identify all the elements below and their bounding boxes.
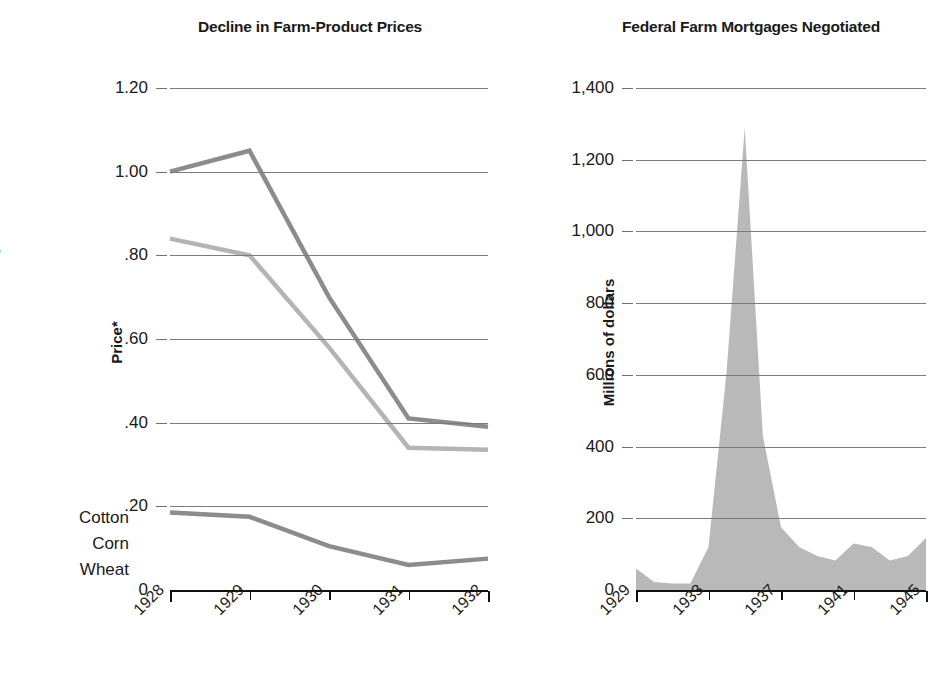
x-tick-mark xyxy=(781,591,783,600)
area-series xyxy=(636,88,926,590)
gridline xyxy=(170,88,488,89)
gridline xyxy=(636,160,926,161)
x-tick-mark xyxy=(409,591,411,600)
gridline xyxy=(636,447,926,448)
gridline xyxy=(636,303,926,304)
y-tick-mark xyxy=(622,88,633,89)
chart-title: Federal Farm Mortgages Negotiated xyxy=(556,18,946,36)
x-tick-mark xyxy=(854,591,856,600)
y-tick-label: 1,000 xyxy=(571,221,614,241)
x-tick-mark xyxy=(488,591,490,602)
chart-legend: Cotton Corn Wheat xyxy=(0,505,129,583)
y-tick-mark xyxy=(156,88,167,89)
gridline xyxy=(170,506,488,507)
y-tick-label: 800 xyxy=(586,293,614,313)
gridline xyxy=(636,231,926,232)
y-tick-mark xyxy=(156,339,167,340)
x-tick-label: 1928 xyxy=(130,581,168,619)
x-tick-mark xyxy=(170,591,172,602)
x-tick-mark xyxy=(926,591,928,602)
y-tick-label: 1.20 xyxy=(115,78,148,98)
x-tick-mark xyxy=(250,591,252,600)
y-tick-label: 1,400 xyxy=(571,78,614,98)
chart-federal-farm-mortgages-negotiated: Federal Farm Mortgages Negotiated Millio… xyxy=(556,18,946,658)
y-tick-mark xyxy=(156,506,167,507)
y-tick-mark xyxy=(622,447,633,448)
y-tick-label: 400 xyxy=(586,437,614,457)
y-tick-label: .60 xyxy=(124,329,148,349)
y-tick-mark xyxy=(156,423,167,424)
series-line-corn xyxy=(170,513,488,565)
legend-item-corn: Corn xyxy=(0,531,129,557)
x-tick-mark xyxy=(636,591,638,602)
legend-label: Cotton xyxy=(79,508,129,527)
gridline xyxy=(636,375,926,376)
series-line-cotton xyxy=(170,151,488,427)
x-tick-label: 1929 xyxy=(596,581,634,619)
y-axis-title: Price* xyxy=(108,313,125,373)
x-tick-mark xyxy=(329,591,331,600)
y-tick-label: 600 xyxy=(586,365,614,385)
legend-item-cotton: Cotton xyxy=(0,505,129,531)
y-tick-mark xyxy=(622,303,633,304)
y-tick-label: 200 xyxy=(586,508,614,528)
x-tick-mark xyxy=(709,591,711,600)
legend-label: Corn xyxy=(92,534,129,553)
y-tick-label: 1.00 xyxy=(115,162,148,182)
area-fill xyxy=(636,127,926,590)
gridline xyxy=(170,172,488,173)
chart-title: Decline in Farm-Product Prices xyxy=(132,18,488,36)
gridline xyxy=(636,518,926,519)
y-tick-mark xyxy=(622,518,633,519)
gridline xyxy=(170,423,488,424)
plot-area: 1,4001,2001,0008006004002000 19291933193… xyxy=(636,88,926,590)
y-tick-mark xyxy=(622,160,633,161)
y-tick-label: .80 xyxy=(124,245,148,265)
plot-area: 1.201.00.80.60.40.200 192819291930193119… xyxy=(170,88,488,590)
y-tick-mark xyxy=(622,231,633,232)
gridline xyxy=(170,339,488,340)
y-tick-mark xyxy=(156,255,167,256)
y-tick-mark xyxy=(156,172,167,173)
legend-item-wheat: Wheat xyxy=(0,557,129,583)
gridline xyxy=(170,255,488,256)
chart-decline-in-farm-product-prices: Decline in Farm-Product Prices Price* 1.… xyxy=(132,18,492,658)
y-axis-title: Millions of dollars xyxy=(600,253,617,433)
y-tick-label: .40 xyxy=(124,413,148,433)
series-line-wheat xyxy=(170,239,488,450)
y-tick-label: .20 xyxy=(124,496,148,516)
y-tick-mark xyxy=(622,375,633,376)
legend-label: Wheat xyxy=(80,560,129,579)
y-tick-label: 1,200 xyxy=(571,150,614,170)
gridline xyxy=(636,88,926,89)
